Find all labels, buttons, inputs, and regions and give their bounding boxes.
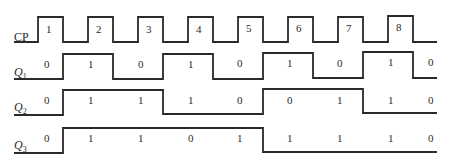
q2-value: 0 bbox=[44, 94, 50, 106]
q2-value: 0 bbox=[287, 94, 293, 106]
q1-label: Q1 bbox=[14, 65, 27, 81]
q2-value: 1 bbox=[337, 94, 343, 106]
cp-value: 2 bbox=[96, 23, 102, 35]
signal-q2: Q2011100110 bbox=[14, 89, 437, 116]
signal-q3: Q3011011110 bbox=[14, 128, 437, 154]
q3-label: Q3 bbox=[14, 138, 27, 154]
q1-value: 1 bbox=[88, 58, 94, 70]
signals-group: CP12345678Q1010101010Q2011100110Q3011011… bbox=[14, 16, 437, 154]
cp-value: 6 bbox=[296, 22, 302, 34]
cp-value: 8 bbox=[396, 21, 402, 33]
q2-waveform bbox=[14, 89, 437, 115]
cp-value: 1 bbox=[46, 23, 52, 35]
cp-waveform bbox=[14, 16, 437, 42]
q1-value: 1 bbox=[388, 56, 394, 68]
signal-q1: Q1010101010 bbox=[14, 52, 437, 81]
q2-label: Q2 bbox=[14, 100, 27, 116]
q3-value: 1 bbox=[337, 132, 343, 144]
q2-value: 1 bbox=[88, 94, 94, 106]
q3-value: 0 bbox=[44, 132, 50, 144]
q1-value: 0 bbox=[44, 58, 50, 70]
q3-value: 1 bbox=[388, 132, 394, 144]
cp-value: 4 bbox=[196, 23, 202, 35]
q1-value: 0 bbox=[337, 57, 343, 69]
cp-label: CP bbox=[14, 30, 29, 44]
q3-value: 0 bbox=[428, 132, 434, 144]
q1-value: 0 bbox=[237, 57, 243, 69]
cp-value: 7 bbox=[346, 22, 352, 34]
q2-value: 1 bbox=[388, 94, 394, 106]
q3-value: 1 bbox=[237, 132, 243, 144]
q1-value: 1 bbox=[287, 57, 293, 69]
q2-value: 0 bbox=[428, 94, 434, 106]
signal-cp: CP12345678 bbox=[14, 16, 437, 44]
q2-value: 1 bbox=[188, 94, 194, 106]
q3-value: 1 bbox=[138, 132, 144, 144]
q1-value: 0 bbox=[138, 58, 144, 70]
q1-waveform bbox=[14, 52, 437, 79]
q3-waveform bbox=[14, 128, 437, 153]
q3-value: 1 bbox=[287, 132, 293, 144]
q1-value: 1 bbox=[188, 58, 194, 70]
cp-value: 3 bbox=[146, 23, 152, 35]
q3-value: 1 bbox=[88, 132, 94, 144]
q2-value: 1 bbox=[138, 94, 144, 106]
timing-diagram: CP12345678Q1010101010Q2011100110Q3011011… bbox=[0, 0, 449, 165]
q1-value: 0 bbox=[428, 56, 434, 68]
q3-value: 0 bbox=[188, 132, 194, 144]
q2-value: 0 bbox=[237, 94, 243, 106]
cp-value: 5 bbox=[246, 22, 252, 34]
